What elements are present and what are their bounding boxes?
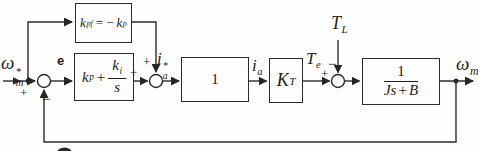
sym-sub: p — [89, 72, 94, 82]
feedforward-branch-wire — [28, 22, 72, 81]
sym-base: ω — [1, 52, 14, 73]
sym-supsub: *m — [15, 66, 23, 85]
sym-base: Js — [384, 82, 397, 98]
sum3-top-minus-sign: − — [328, 57, 336, 72]
label-speed-output: ωm — [456, 54, 478, 77]
sum-junction-3 — [332, 75, 345, 88]
plant-block: 1Js+B — [362, 58, 440, 105]
output-branch-dot — [454, 79, 459, 84]
label-load-torque: TL — [331, 14, 348, 36]
label-error: e — [57, 54, 64, 67]
sym-base: T — [306, 49, 315, 68]
sym-op: + — [97, 69, 105, 86]
sym-sub: a — [163, 71, 168, 81]
sym-op: = − — [96, 15, 114, 31]
sym-sub: p — [123, 19, 127, 28]
label-electromagnetic-torque: Te — [306, 50, 321, 71]
plant-fraction: 1Js+B — [384, 64, 418, 99]
label-armature-current: ia — [252, 57, 263, 78]
sym-sub: L — [342, 23, 348, 35]
scan-artifact-mark — [57, 148, 72, 152]
label-current-reference: i*a — [157, 50, 168, 78]
sym-base: e — [57, 53, 64, 68]
sum2-top-plus-sign: + — [143, 55, 150, 68]
fraction-denominator: s — [114, 79, 120, 96]
sum1-plus-sign: + — [20, 86, 27, 99]
torque-constant-block: KT — [269, 58, 303, 103]
pi-controller-block: kp+kis — [74, 53, 134, 101]
fraction-numerator: ki — [108, 58, 126, 78]
sym-sub: e — [316, 59, 321, 70]
sym-base: k — [82, 69, 89, 86]
sym-base: k — [117, 15, 123, 31]
sym-sub: pf — [86, 19, 92, 28]
label-speed-reference: ω*m — [1, 53, 23, 85]
fraction-numerator: 1 — [384, 64, 418, 82]
sym-supsub: *a — [163, 61, 168, 78]
sum2-left-plus-sign: + — [130, 66, 137, 79]
sym-base: B — [409, 82, 418, 98]
input-branch-dot — [26, 79, 31, 84]
unity-block: 1 — [181, 57, 249, 102]
sym-base: k — [112, 57, 119, 73]
sym-op: + — [398, 82, 406, 98]
sum-junction-1 — [38, 75, 51, 88]
feedforward-block: kpf= −kp — [75, 3, 132, 43]
sym-base: i — [157, 49, 162, 68]
unity-value: 1 — [211, 71, 219, 88]
sym-sub: a — [257, 66, 262, 77]
sym-base: ω — [456, 53, 469, 74]
sym-base: T — [331, 13, 341, 33]
sym-sub: T — [289, 75, 295, 87]
sym-sub: m — [470, 65, 479, 78]
fraction-denominator: Js+B — [384, 82, 418, 99]
sym-sub: i — [119, 66, 122, 76]
sum3-left-plus-sign: + — [321, 67, 328, 80]
sym-base: K — [277, 70, 289, 91]
sum1-minus-sign: − — [42, 92, 50, 107]
block-diagram: kpf= −kp kp+kis 1 KT 1Js+B ω*m e i*a ia … — [0, 0, 479, 151]
integrator-fraction: kis — [108, 58, 126, 95]
